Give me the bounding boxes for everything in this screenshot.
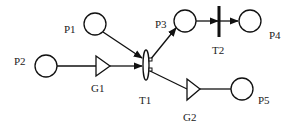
petri-net-diagram: P1 P2 P3 P4 P5 G1 G2 T1 T2 — [0, 0, 294, 130]
label-p5: P5 — [258, 94, 270, 106]
label-g2: G2 — [183, 111, 196, 123]
label-p1: P1 — [64, 23, 76, 35]
place-p4 — [239, 10, 261, 32]
place-p3 — [174, 10, 196, 32]
arc-t1-g2 — [150, 71, 187, 89]
t1-port-upper — [149, 58, 152, 61]
label-p3: P3 — [155, 18, 167, 30]
transition-t1 — [143, 50, 149, 80]
gate-g2 — [187, 79, 200, 100]
arc-t1-p3 — [150, 28, 176, 60]
label-p2: P2 — [14, 55, 26, 67]
transition-t2 — [218, 6, 221, 37]
place-p1 — [84, 13, 106, 35]
gate-g1 — [96, 56, 110, 76]
place-p5 — [231, 78, 253, 100]
label-p4: P4 — [269, 29, 281, 41]
label-g1: G1 — [91, 82, 104, 94]
label-t2: T2 — [212, 44, 224, 56]
place-p2 — [35, 55, 57, 77]
label-t1: T1 — [139, 94, 151, 106]
t1-port-lower — [149, 68, 152, 71]
arc-p1-t1 — [103, 32, 142, 58]
